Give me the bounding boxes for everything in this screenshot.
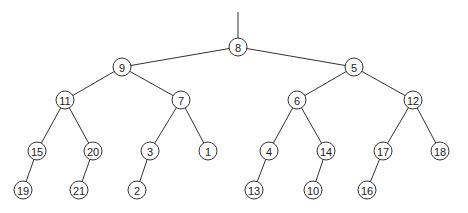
node-label: 8 (235, 42, 241, 54)
node-label: 10 (307, 185, 319, 197)
node-label: 19 (17, 185, 29, 197)
tree-node-4: 4 (260, 142, 278, 160)
node-label: 12 (407, 95, 419, 107)
tree-edge-8-9 (122, 47, 238, 67)
node-label: 14 (320, 146, 332, 158)
tree-edge-5-6 (297, 67, 354, 100)
tree-node-12: 12 (404, 91, 422, 109)
tree-node-11: 11 (56, 91, 74, 109)
node-label: 17 (377, 146, 389, 158)
tree-node-3: 3 (141, 142, 159, 160)
node-label: 4 (266, 146, 272, 158)
tree-node-8: 8 (229, 38, 247, 56)
tree-node-17: 17 (374, 142, 392, 160)
node-label: 7 (178, 95, 184, 107)
tree-node-9: 9 (113, 58, 131, 76)
tree-node-18: 18 (431, 142, 449, 160)
tree-node-7: 7 (172, 91, 190, 109)
tree-node-21: 21 (70, 181, 88, 199)
node-label: 21 (73, 185, 85, 197)
tree-nodes: 895117612152031414171819212131016 (14, 38, 449, 199)
tree-node-10: 10 (304, 181, 322, 199)
tree-edge-9-7 (122, 67, 181, 100)
node-label: 1 (205, 146, 211, 158)
node-label: 11 (59, 95, 70, 107)
tree-edge-5-12 (354, 67, 413, 100)
node-label: 5 (351, 62, 357, 74)
tree-node-5: 5 (345, 58, 363, 76)
tree-node-13: 13 (245, 181, 263, 199)
node-label: 20 (87, 146, 99, 158)
node-label: 18 (434, 146, 446, 158)
tree-edges (23, 12, 440, 190)
tree-node-20: 20 (84, 142, 102, 160)
node-label: 15 (31, 146, 43, 158)
tree-node-6: 6 (288, 91, 306, 109)
tree-node-1: 1 (199, 142, 217, 160)
node-label: 9 (119, 62, 125, 74)
tree-node-15: 15 (28, 142, 46, 160)
node-label: 16 (361, 185, 373, 197)
tree-node-2: 2 (128, 181, 146, 199)
binary-tree-diagram: 895117612152031414171819212131016 (0, 0, 468, 213)
tree-node-16: 16 (358, 181, 376, 199)
tree-edge-8-5 (238, 47, 354, 67)
tree-edge-9-11 (65, 67, 122, 100)
tree-node-14: 14 (317, 142, 335, 160)
tree-node-19: 19 (14, 181, 32, 199)
node-label: 6 (294, 95, 300, 107)
node-label: 2 (134, 185, 140, 197)
node-label: 13 (248, 185, 260, 197)
node-label: 3 (147, 146, 153, 158)
